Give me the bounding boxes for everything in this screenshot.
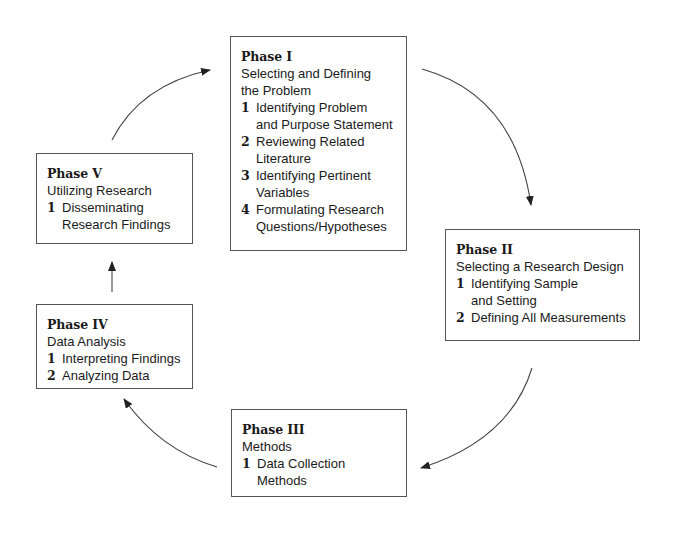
phase-4-subtitle: Data Analysis — [47, 333, 192, 350]
arrow-phase5-to-phase1 — [112, 70, 210, 140]
step-text: Identifying Pertinent Variables — [256, 167, 371, 201]
phase-2-step-1: 1 Identifying Sample and Setting — [456, 275, 639, 309]
phase-5-title: Phase V — [47, 165, 192, 182]
phase-1-step-2: 2 Reviewing Related Literature — [241, 133, 406, 167]
step-number: 1 — [241, 99, 256, 116]
phase-1-step-3: 3 Identifying Pertinent Variables — [241, 167, 406, 201]
step-text: Data Collection Methods — [257, 455, 345, 489]
step-number: 2 — [47, 367, 62, 384]
step-number: 1 — [456, 275, 471, 292]
step-text: Defining All Measurements — [471, 309, 626, 326]
phase-1-title: Phase I — [241, 48, 406, 65]
phase-2-box: Phase II Selecting a Research Design 1 I… — [445, 229, 640, 341]
step-number: 1 — [47, 199, 62, 216]
phase-5-subtitle: Utilizing Research — [47, 182, 192, 199]
phase-2-step-2: 2 Defining All Measurements — [456, 309, 639, 326]
arrow-phase2-to-phase3 — [421, 368, 532, 468]
phase-1-step-1: 1 Identifying Problem and Purpose Statem… — [241, 99, 406, 133]
phase-3-title: Phase III — [242, 421, 406, 438]
phase-2-subtitle: Selecting a Research Design — [456, 258, 639, 275]
step-text: Identifying Sample and Setting — [471, 275, 578, 309]
phase-3-step-1: 1 Data Collection Methods — [242, 455, 406, 489]
step-text: Formulating Research Questions/Hypothese… — [256, 201, 387, 235]
step-text: Reviewing Related Literature — [256, 133, 364, 167]
phase-3-subtitle: Methods — [242, 438, 406, 455]
step-number: 2 — [456, 309, 471, 326]
phase-5-step-1: 1 Disseminating Research Findings — [47, 199, 192, 233]
step-text: Analyzing Data — [62, 367, 149, 384]
phase-5-box: Phase V Utilizing Research 1 Disseminati… — [36, 153, 193, 244]
phase-4-box: Phase IV Data Analysis 1 Interpreting Fi… — [36, 304, 193, 389]
arrow-phase3-to-phase4 — [124, 399, 217, 467]
phase-3-box: Phase III Methods 1 Data Collection Meth… — [231, 409, 407, 497]
phase-4-step-2: 2 Analyzing Data — [47, 367, 192, 384]
phase-4-title: Phase IV — [47, 316, 192, 333]
step-text: Identifying Problem and Purpose Statemen… — [256, 99, 393, 133]
phase-1-box: Phase I Selecting and Defining the Probl… — [230, 36, 407, 251]
step-number: 2 — [241, 133, 256, 150]
step-number: 1 — [242, 455, 257, 472]
step-number: 4 — [241, 201, 256, 218]
phase-1-step-4: 4 Formulating Research Questions/Hypothe… — [241, 201, 406, 235]
step-text: Interpreting Findings — [62, 350, 181, 367]
phase-1-subtitle: Selecting and Defining the Problem — [241, 65, 406, 99]
arrow-phase1-to-phase2 — [422, 69, 531, 205]
phase-2-title: Phase II — [456, 241, 639, 258]
phase-4-step-1: 1 Interpreting Findings — [47, 350, 192, 367]
step-text: Disseminating Research Findings — [62, 199, 170, 233]
step-number: 1 — [47, 350, 62, 367]
step-number: 3 — [241, 167, 256, 184]
research-process-diagram: Phase I Selecting and Defining the Probl… — [0, 0, 676, 538]
